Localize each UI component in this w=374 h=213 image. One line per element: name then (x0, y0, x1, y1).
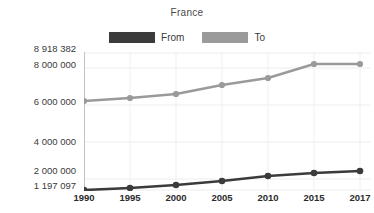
data-point-from[interactable] (127, 185, 134, 191)
data-point-from[interactable] (84, 187, 87, 191)
x-axis-labels: 1990 1995 2000 2005 2010 2015 2017 (84, 192, 370, 208)
data-point-to[interactable] (311, 61, 317, 67)
x-axis-tick-label: 1995 (119, 192, 140, 204)
data-point-from[interactable] (219, 178, 226, 185)
data-point-to[interactable] (265, 75, 271, 81)
legend-label-to: To (254, 32, 265, 43)
grid-lines (84, 52, 370, 191)
line-chart-svg (84, 52, 370, 191)
data-point-to[interactable] (219, 82, 225, 88)
data-point-from[interactable] (357, 168, 364, 175)
legend-swatch-to-icon (202, 32, 248, 43)
data-point-to[interactable] (127, 95, 133, 101)
y-axis-tick-label: 8 000 000 (34, 60, 76, 70)
x-axis-tick-label: 2005 (211, 192, 232, 204)
x-axis-tick-label: 2010 (257, 192, 278, 204)
x-axis-tick-label: 1990 (73, 192, 94, 204)
x-axis-tick-label: 2015 (303, 192, 324, 204)
plot-area (84, 52, 370, 191)
chart-container: France From To 8 918 382 8 000 000 6 000… (0, 0, 374, 213)
y-axis-tick-label: 1 197 097 (34, 181, 76, 191)
y-axis-tick-label: 2 000 000 (34, 166, 76, 176)
x-axis-tick-label: 2017 (349, 192, 370, 204)
y-axis-tick-label: 6 000 000 (34, 97, 76, 107)
legend-item-to[interactable]: To (202, 32, 265, 43)
y-axis-tick-label: 4 000 000 (34, 137, 76, 147)
chart-legend: From To (0, 32, 374, 43)
data-point-from[interactable] (265, 173, 272, 180)
x-axis-tick-label: 2000 (165, 192, 186, 204)
data-point-to[interactable] (173, 91, 179, 97)
legend-label-from: From (161, 32, 184, 43)
legend-item-from[interactable]: From (109, 32, 184, 43)
chart-title: France (0, 7, 374, 18)
data-point-to[interactable] (84, 98, 87, 104)
data-point-from[interactable] (173, 182, 180, 189)
data-point-from[interactable] (311, 170, 318, 177)
series-to (84, 61, 363, 104)
y-axis-tick-label: 8 918 382 (34, 44, 76, 54)
data-point-to[interactable] (357, 61, 363, 67)
legend-swatch-from-icon (109, 32, 155, 43)
